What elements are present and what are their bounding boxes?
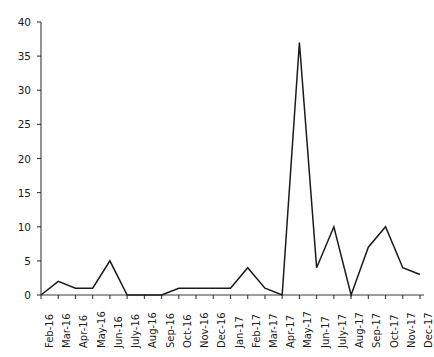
y-tick-label: 35 bbox=[0, 51, 31, 62]
x-tick-label: May-17 bbox=[303, 311, 313, 348]
x-tick-label: Feb-16 bbox=[45, 314, 55, 348]
x-tick-label: Oct-17 bbox=[390, 314, 400, 348]
x-tick-label: Aug-16 bbox=[148, 312, 158, 348]
x-tick-label: Mar-17 bbox=[269, 313, 279, 348]
y-tick-label: 20 bbox=[0, 154, 31, 165]
x-tick-label: Jun-16 bbox=[114, 316, 124, 348]
x-tick-label: Jun-17 bbox=[321, 316, 331, 348]
y-tick-label: 10 bbox=[0, 222, 31, 233]
x-tick-label: Jan-17 bbox=[235, 316, 245, 348]
x-tick-label: July-17 bbox=[338, 314, 348, 348]
x-tick-label: Sep-17 bbox=[372, 313, 382, 348]
x-tick-label: Mar-16 bbox=[62, 313, 72, 348]
x-tick-label: May-16 bbox=[97, 311, 107, 348]
y-tick-label: 0 bbox=[0, 290, 31, 301]
x-tick-label: Aug-17 bbox=[355, 312, 365, 348]
chart-tick-marks bbox=[37, 22, 420, 299]
data-series-line bbox=[41, 42, 420, 295]
x-tick-label: Nov-17 bbox=[407, 312, 417, 348]
y-tick-label: 25 bbox=[0, 119, 31, 130]
x-tick-label: Nov-16 bbox=[200, 312, 210, 348]
x-tick-label: Sep-16 bbox=[166, 313, 176, 348]
y-tick-label: 15 bbox=[0, 188, 31, 199]
y-tick-label: 30 bbox=[0, 85, 31, 96]
x-tick-label: Dec-16 bbox=[217, 312, 227, 348]
x-tick-label: Oct-16 bbox=[183, 314, 193, 348]
x-tick-label: Feb-17 bbox=[252, 314, 262, 348]
y-tick-label: 40 bbox=[0, 17, 31, 28]
y-tick-label: 5 bbox=[0, 256, 31, 267]
x-tick-label: Dec-17 bbox=[424, 312, 434, 348]
x-tick-label: Apr-17 bbox=[286, 315, 296, 348]
x-tick-label: Apr-16 bbox=[79, 315, 89, 348]
x-tick-label: July-16 bbox=[131, 314, 141, 348]
